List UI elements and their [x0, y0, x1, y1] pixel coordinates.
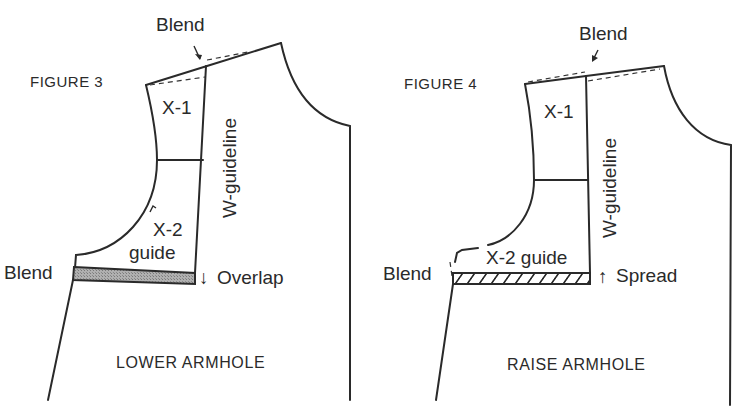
figure-4-side-seam: [436, 284, 453, 400]
figure-3-title: FIGURE 3: [30, 73, 103, 90]
pattern-diagram: FIGURE 3 Blend X-1: [0, 0, 736, 420]
figure-4-caption: RAISE ARMHOLE: [507, 356, 646, 373]
figure-4-title: FIGURE 4: [404, 75, 477, 92]
figure-3-neckline: [281, 43, 350, 400]
figure-4-shoulder-line: [525, 66, 664, 84]
figure-4-armhole-upper: [525, 84, 534, 180]
figure-3-x2-label: X-2: [153, 219, 183, 240]
figure-3-blend-side-label: Blend: [4, 262, 53, 283]
figure-3: FIGURE 3 Blend X-1: [4, 14, 350, 400]
figure-4-blend-top-label: Blend: [579, 23, 628, 44]
figure-4-armhole-end: [455, 248, 478, 262]
figure-4-spread-band: [453, 273, 590, 284]
figure-4-armhole-lower: [488, 180, 534, 245]
figure-4-x2-label: X-2 guide: [486, 247, 567, 268]
figure-4-spread-arrow-icon: ↑: [598, 266, 608, 287]
figure-3-x1-label: X-1: [162, 97, 192, 118]
figure-3-shoulder-line: [146, 43, 281, 85]
figure-4-spread-label: Spread: [616, 265, 677, 286]
figure-4-blend-side-label: Blend: [383, 263, 432, 284]
figure-3-arrowhead-icon: [195, 54, 202, 60]
figure-4: FIGURE 4 Blend X-1 X-2 guide W-guideline…: [383, 23, 731, 405]
figure-3-side-seam: [48, 280, 73, 400]
figure-3-w-guideline-label: W-guideline: [219, 118, 240, 218]
figure-3-notch: [150, 206, 156, 212]
figure-3-overlap-arrow-icon: ↓: [199, 267, 209, 288]
figure-3-overlap-band: [73, 267, 195, 284]
figure-3-armhole-upper: [146, 85, 157, 160]
figure-4-blend-dash-side: [450, 262, 452, 276]
figure-4-w-guideline-label: W-guideline: [599, 138, 620, 238]
figure-3-blend-top-label: Blend: [156, 14, 205, 35]
figure-4-x1-label: X-1: [544, 101, 574, 122]
figure-3-caption: LOWER ARMHOLE: [116, 354, 265, 371]
figure-3-guide-label: guide: [129, 242, 176, 263]
figure-3-overlap-label: Overlap: [217, 267, 284, 288]
figure-4-w-guideline: [586, 76, 590, 273]
figure-3-w-guideline: [195, 66, 206, 273]
figure-4-neckline: [664, 66, 731, 405]
